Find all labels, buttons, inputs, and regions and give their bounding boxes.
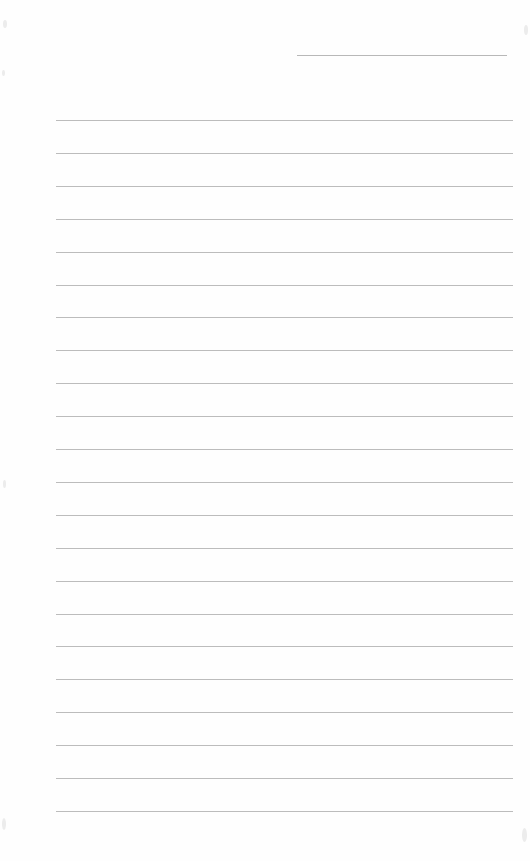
ruled-line [56,646,513,647]
paper-speck [3,480,6,488]
ruled-line [56,317,513,318]
paper-speck [2,70,5,76]
ruled-line [56,778,513,779]
ruled-line [56,120,513,121]
ruled-line [56,745,513,746]
ruled-line [56,811,513,812]
notebook-page [0,0,530,861]
ruled-line [56,548,513,549]
paper-speck [524,25,528,35]
paper-speck [2,818,6,830]
ruled-line [56,416,513,417]
ruled-line [56,712,513,713]
ruled-line [56,679,513,680]
paper-speck [522,828,527,842]
ruled-line [56,285,513,286]
ruled-line [56,252,513,253]
ruled-line [56,449,513,450]
ruled-line [56,482,513,483]
ruled-line [56,614,513,615]
header-title-line [297,55,507,56]
ruled-line [56,383,513,384]
ruled-line [56,219,513,220]
paper-speck [3,20,7,28]
ruled-line [56,350,513,351]
ruled-line [56,515,513,516]
ruled-line [56,153,513,154]
ruled-line [56,186,513,187]
ruled-line [56,581,513,582]
